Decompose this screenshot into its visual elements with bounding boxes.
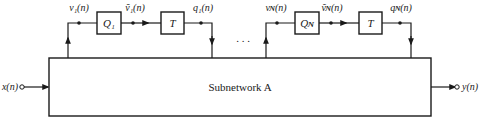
delay-label-1: T: [169, 17, 176, 29]
output-label: y(n): [461, 81, 479, 93]
ellipsis: . . .: [236, 32, 250, 44]
node-dot-icon: [131, 21, 135, 25]
v1-tilde-label: ṽ₁(n): [125, 2, 145, 14]
input-terminal: x(n): [1, 81, 48, 93]
node-dot-icon: [398, 21, 402, 25]
v1-label: v₁(n): [69, 2, 89, 14]
delay-label-n: T: [367, 17, 374, 29]
block-diagram: Subnetwork A x(n) y(n) Q₁ T v₁(n) ṽ₁(n)…: [0, 0, 491, 124]
node-dot-icon: [199, 21, 203, 25]
quantizer-label-1: Q₁: [103, 17, 115, 29]
qn-label: qɴ(n): [390, 2, 412, 14]
quantizer-label-n: Qɴ: [300, 17, 314, 29]
feedback-loop-1: Q₁ T v₁(n) ṽ₁(n) q₁(n): [68, 2, 214, 58]
vn-tilde-label: ṽɴ(n): [321, 2, 343, 14]
output-terminal: y(n): [431, 81, 479, 93]
node-dot-icon: [329, 21, 333, 25]
input-label: x(n): [1, 81, 19, 93]
subnetwork-a-block: Subnetwork A: [49, 58, 431, 116]
node-dot-icon: [77, 21, 81, 25]
vn-label: vɴ(n): [265, 2, 287, 14]
subnetwork-label: Subnetwork A: [208, 81, 271, 93]
feedback-loop-n: Qɴ T vɴ(n) ṽɴ(n) qɴ(n): [265, 2, 412, 58]
q1-label: q₁(n): [193, 2, 214, 14]
node-dot-icon: [275, 21, 279, 25]
